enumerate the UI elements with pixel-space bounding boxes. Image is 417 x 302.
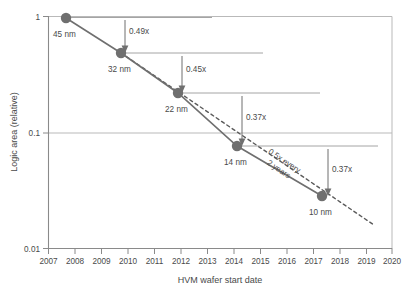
point-label-14nm: 14 nm [224,158,247,167]
x-tick-label-2007: 2007 [39,257,58,266]
logic-area-scaling-chart: 1 0.1 0.01 2007 2008 2009 2010 2011 2012… [0,0,417,302]
x-tick-label-2012: 2012 [172,257,191,266]
x-tick-label-2009: 2009 [92,257,111,266]
x-tick-label-2008: 2008 [66,257,85,266]
annotation-0.37x-a: 0.37x [178,93,320,146]
x-tick-label-2019: 2019 [357,257,376,266]
x-tick-label-2011: 2011 [146,257,164,266]
annotation-0.49x: 0.49x [66,18,212,54]
y-tick-label-0.1: 0.1 [29,129,41,138]
point-label-22nm: 22 nm [165,105,188,114]
x-tick-label-2016: 2016 [278,257,297,266]
data-point-14nm[interactable] [232,141,242,151]
x-tick-label-2015: 2015 [251,257,270,266]
chart-container: 1 0.1 0.01 2007 2008 2009 2010 2011 2012… [0,0,417,302]
point-label-32nm: 32 nm [108,65,131,74]
trend-line-label: 0.5x every 2 years [261,147,302,183]
x-axis-title: HVM wafer start date [178,275,263,285]
data-point-32nm[interactable] [116,48,126,58]
x-tick-label-2013: 2013 [198,257,217,266]
x-tick-label-2010: 2010 [119,257,138,266]
data-point-10nm[interactable] [317,191,327,201]
point-label-45nm: 45 nm [53,30,76,39]
y-tick-label-0.01: 0.01 [24,245,40,254]
annotation-0.45x: 0.45x [121,53,263,93]
y-axis-ticks [43,17,48,249]
ratio-label-0.49x: 0.49x [129,27,149,36]
ratio-label-0.45x: 0.45x [186,65,206,74]
ratio-label-0.37x-a: 0.37x [246,113,266,122]
ratio-label-0.37x-b: 0.37x [332,165,352,174]
x-tick-label-2017: 2017 [304,257,323,266]
x-tick-label-2018: 2018 [331,257,350,266]
data-point-45nm[interactable] [61,13,71,23]
y-tick-label-1: 1 [35,13,40,22]
annotation-0.37x-b: 0.37x [237,146,378,196]
point-label-10nm: 10 nm [309,208,332,217]
x-tick-label-2014: 2014 [225,257,244,266]
y-axis-title: Logic area (relative) [9,92,19,172]
x-tick-label-2020: 2020 [383,257,402,266]
plot-frame [48,16,392,249]
data-point-22nm[interactable] [173,88,183,98]
